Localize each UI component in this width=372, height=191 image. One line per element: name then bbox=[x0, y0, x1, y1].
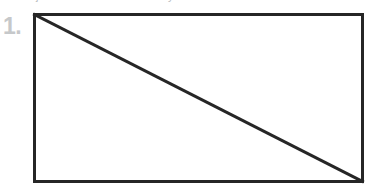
rectangle-diagonal-line bbox=[33, 13, 364, 183]
problem-number-label: 1. bbox=[3, 14, 29, 39]
clipped-header-text: j y bbox=[0, 0, 372, 6]
diagonal-stroke bbox=[35, 15, 363, 182]
worksheet-figure-canvas: j y 1. bbox=[0, 0, 372, 191]
clipped-text-fragment-right: y bbox=[168, 0, 174, 2]
clipped-text-fragment-left: j bbox=[36, 0, 38, 2]
